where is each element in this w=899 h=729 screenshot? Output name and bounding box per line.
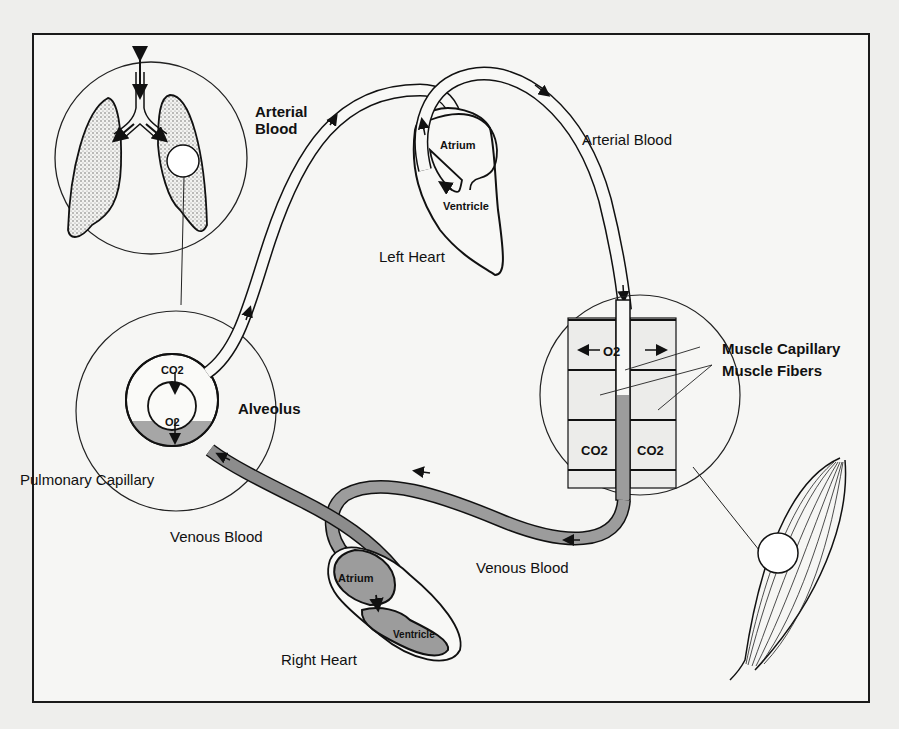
right-heart — [328, 547, 461, 660]
label-muscle-co2-right: CO2 — [637, 442, 664, 459]
label-pulmonary-capillary: Pulmonary Capillary — [20, 471, 154, 488]
label-arterial-blood-right: Arterial Blood — [582, 131, 672, 148]
label-alveolus-co2: CO2 — [161, 362, 184, 379]
label-muscle-co2-left: CO2 — [581, 442, 608, 459]
label-muscle-o2: O2 — [603, 343, 620, 360]
lungs-inset — [55, 58, 247, 305]
left-heart — [414, 74, 625, 310]
label-left-ventricle: Ventricle — [443, 198, 489, 215]
label-right-atrium: Atrium — [338, 570, 373, 587]
label-muscle-fibers: Muscle Fibers — [722, 362, 822, 379]
whole-muscle — [730, 458, 846, 680]
label-venous-blood-left: Venous Blood — [170, 528, 263, 545]
label-arterial-blood-left-line2: Blood — [255, 120, 298, 137]
label-venous-blood-right: Venous Blood — [476, 559, 569, 576]
label-arterial-blood-left-line1: Arterial — [255, 103, 308, 120]
alveolus-highlight-circle — [167, 145, 199, 177]
label-right-heart: Right Heart — [281, 651, 357, 668]
muscle-capillary-inset — [540, 295, 767, 560]
label-alveolus-o2: O2 — [165, 414, 180, 431]
label-alveolus: Alveolus — [238, 400, 301, 417]
label-left-heart: Left Heart — [379, 248, 445, 265]
label-right-ventricle: Ventricle — [393, 626, 435, 643]
label-left-atrium: Atrium — [440, 137, 475, 154]
label-muscle-capillary: Muscle Capillary — [722, 340, 840, 357]
